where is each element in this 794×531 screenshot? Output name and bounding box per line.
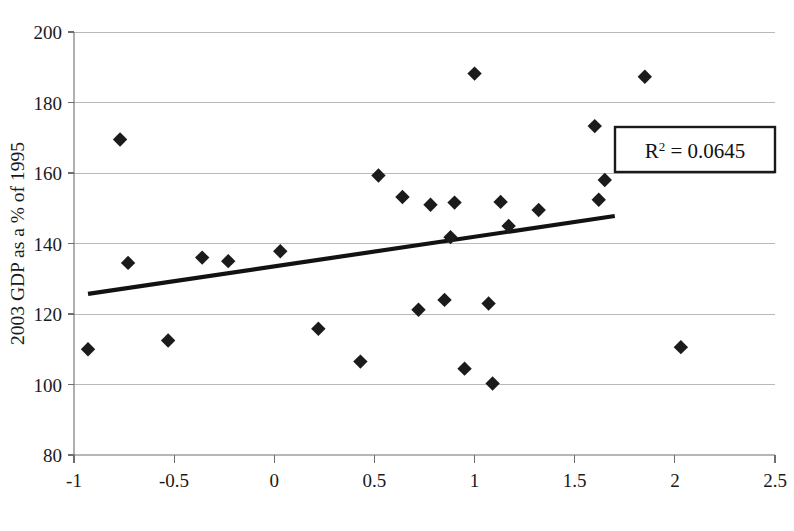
x-tick-label: 2: [670, 470, 680, 491]
r2-annotation: R2 = 0.0645: [615, 127, 775, 172]
y-tick-label: 100: [34, 375, 63, 396]
data-point: [371, 168, 385, 182]
data-point: [467, 66, 481, 80]
data-point: [588, 119, 602, 133]
data-point: [674, 340, 688, 354]
x-tick-label: 2.5: [763, 470, 787, 491]
y-tick-label: 80: [43, 445, 62, 466]
x-tick-label: -1: [66, 470, 82, 491]
data-point: [481, 296, 495, 310]
x-tick-label: 0.5: [363, 470, 387, 491]
r2-suffix: = 0.0645: [665, 139, 745, 163]
y-tick-label: 160: [34, 163, 63, 184]
data-point: [592, 193, 606, 207]
x-tick-label: 0: [270, 470, 280, 491]
y-tick-label: 140: [34, 234, 63, 255]
scatter-chart: 200 180 160 140 120 100 80 -1 -0.5 0 0.5…: [0, 0, 794, 531]
data-points: [81, 66, 688, 390]
y-axis-title: 2003 GDP as a % of 1995: [7, 142, 28, 345]
y-tick-label: 200: [34, 22, 63, 43]
data-point: [81, 342, 95, 356]
data-point: [195, 250, 209, 264]
x-tick-label: 1: [470, 470, 480, 491]
x-tick-label: 1.5: [563, 470, 587, 491]
data-point: [598, 173, 612, 187]
data-point: [423, 198, 437, 212]
data-point: [638, 70, 652, 84]
data-point: [121, 256, 135, 270]
data-point: [485, 376, 499, 390]
data-point: [161, 333, 175, 347]
data-point: [493, 195, 507, 209]
r2-prefix: R: [645, 139, 659, 163]
y-tick-labels: 200 180 160 140 120 100 80: [34, 22, 63, 466]
data-point: [447, 195, 461, 209]
y-tickmarks: [68, 32, 74, 455]
x-tick-labels: -1 -0.5 0 0.5 1 1.5 2 2.5: [66, 470, 787, 491]
plot-canvas: 200 180 160 140 120 100 80 -1 -0.5 0 0.5…: [0, 0, 794, 531]
data-point: [395, 190, 409, 204]
data-point: [311, 322, 325, 336]
data-point: [221, 254, 235, 268]
data-point: [273, 244, 287, 258]
data-point: [353, 354, 367, 368]
x-tick-label: -0.5: [159, 470, 189, 491]
x-tickmarks: [74, 455, 775, 463]
y-tick-label: 120: [34, 304, 63, 325]
y-tick-label: 180: [34, 93, 63, 114]
trendline: [88, 216, 615, 294]
data-point: [457, 361, 471, 375]
data-point: [113, 132, 127, 146]
data-point: [437, 293, 451, 307]
data-point: [411, 303, 425, 317]
data-point: [531, 203, 545, 217]
